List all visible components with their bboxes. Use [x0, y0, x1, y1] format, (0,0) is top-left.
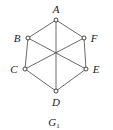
node-label-F: F [90, 32, 98, 44]
node-D [54, 89, 58, 93]
graph-nodes [23, 18, 88, 93]
node-B [26, 36, 30, 40]
edge-C-D [25, 69, 56, 91]
node-A [54, 18, 58, 22]
node-label-E: E [92, 63, 100, 75]
graph-edges [25, 20, 86, 91]
edge-A-B [28, 20, 56, 38]
node-label-A: A [52, 3, 60, 15]
graph-diagram: ABCDEF G1 [0, 0, 113, 130]
node-label-B: B [14, 32, 21, 44]
graph-caption: G1 [48, 116, 60, 130]
node-F [82, 36, 86, 40]
node-E [84, 67, 88, 71]
node-C [23, 67, 27, 71]
node-label-D: D [51, 96, 60, 108]
edge-D-E [56, 69, 86, 91]
node-label-C: C [10, 63, 18, 75]
edge-B-E [28, 38, 86, 69]
edge-F-A [56, 20, 84, 38]
edge-C-F [25, 38, 84, 69]
edge-E-F [84, 38, 86, 69]
edge-B-C [25, 38, 28, 69]
